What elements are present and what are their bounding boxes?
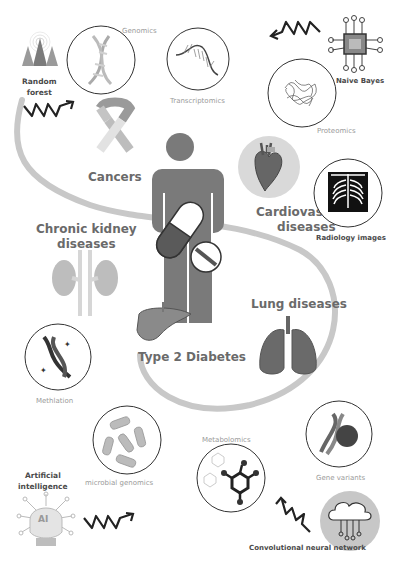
t2d-label: Type 2 Diabetes [138, 350, 246, 365]
ai-head-icon: AI [16, 492, 76, 552]
methylation-label: Methlation [36, 397, 73, 405]
radiology-circle [313, 158, 383, 228]
random-forest-label: Random forest [22, 76, 57, 98]
cancer-ribbon-icon [90, 98, 140, 158]
zigzag-arrow-icon [268, 18, 323, 38]
svg-text:✦: ✦ [40, 366, 47, 375]
zigzag-arrow-icon [270, 494, 315, 534]
methylation-circle: ✦ ✦ [24, 323, 92, 391]
microbial-circle [92, 405, 162, 475]
proteomics-label: Proteomics [317, 127, 356, 135]
transcriptomics-circle [166, 27, 230, 91]
ai-line1: Artificial [18, 470, 68, 481]
ai-label: Artificial intelligence [18, 470, 68, 492]
proteomics-circle [267, 58, 337, 128]
random-forest-line1: Random [22, 76, 57, 87]
genomics-label: Genomics [122, 27, 157, 35]
lungs-icon [256, 316, 320, 378]
cnn-cloud-circle [319, 490, 381, 552]
heart-circle [237, 135, 301, 199]
ai-line2: intelligence [18, 481, 68, 492]
microbial-label: microbial genomics [85, 479, 153, 487]
naive-bayes-label: Naive Bayes [336, 77, 384, 85]
zigzag-arrow-icon [22, 100, 77, 120]
radiology-label: Radiology images [316, 234, 386, 242]
lung-label: Lung diseases [251, 297, 347, 312]
transcriptomics-label: Transcriptomics [170, 97, 225, 105]
random-forest-line2: forest [22, 87, 57, 98]
kidneys-icon [50, 250, 120, 320]
tablet-pill-icon [189, 240, 223, 274]
ckd-line1: Chronic kidney [36, 222, 137, 237]
gene-variants-label: Gene variants [316, 474, 365, 482]
svg-text:✦: ✦ [64, 340, 71, 349]
ai-badge: AI [38, 514, 48, 524]
cnn-label: Convolutional neural network [249, 544, 366, 552]
ckd-label: Chronic kidney diseases [36, 222, 137, 252]
liver-icon [135, 300, 195, 348]
metabolomics-circle [196, 443, 266, 513]
zigzag-arrow-icon [82, 512, 137, 532]
gene-variants-circle [305, 400, 373, 468]
cancers-label: Cancers [88, 170, 142, 185]
forest-icon [20, 28, 60, 68]
